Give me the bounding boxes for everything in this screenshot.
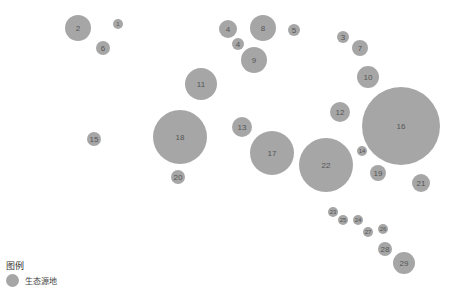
source-node[interactable]: 24: [353, 215, 363, 225]
source-node[interactable]: 21: [412, 174, 430, 192]
source-node[interactable]: 17: [250, 131, 294, 175]
source-node[interactable]: 19: [370, 165, 386, 181]
ecological-source-map: 1264485937101112161315181722141921202325…: [0, 0, 449, 294]
legend-title: 图例: [6, 259, 57, 272]
source-node[interactable]: 20: [171, 170, 185, 184]
legend: 图例 生态源地: [6, 259, 57, 287]
source-node[interactable]: 2: [65, 15, 91, 41]
source-node[interactable]: 16: [362, 87, 440, 165]
source-node[interactable]: 4: [219, 20, 237, 38]
source-node[interactable]: 11: [185, 68, 217, 100]
circle-swatch-icon: [6, 274, 19, 287]
source-node[interactable]: 26: [378, 224, 388, 234]
source-node[interactable]: 18: [153, 110, 207, 164]
legend-item-ecological-source: 生态源地: [6, 274, 57, 287]
source-node[interactable]: 12: [330, 102, 350, 122]
legend-item-label: 生态源地: [25, 275, 57, 286]
source-node[interactable]: 15: [87, 132, 101, 146]
source-node[interactable]: 23: [328, 207, 338, 217]
source-node[interactable]: 9: [241, 47, 267, 73]
source-node[interactable]: 8: [250, 15, 276, 41]
source-node[interactable]: 29: [393, 252, 415, 274]
source-node[interactable]: 5: [288, 24, 300, 36]
source-node[interactable]: 6: [96, 41, 110, 55]
source-node[interactable]: 1: [113, 19, 123, 29]
source-node[interactable]: 7: [352, 40, 368, 56]
source-node[interactable]: 22: [299, 138, 353, 192]
source-node[interactable]: 13: [232, 117, 252, 137]
source-node[interactable]: 10: [357, 66, 379, 88]
source-node[interactable]: 3: [337, 31, 349, 43]
source-node[interactable]: 14: [357, 146, 367, 156]
source-node[interactable]: 27: [363, 227, 373, 237]
source-node[interactable]: 25: [338, 215, 348, 225]
source-node[interactable]: 28: [378, 242, 392, 256]
source-node[interactable]: 4: [232, 38, 244, 50]
